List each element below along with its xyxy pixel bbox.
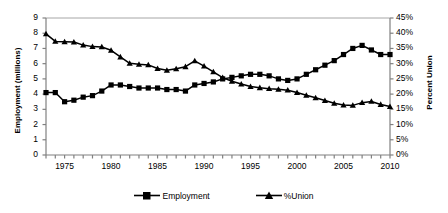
legend-item-employment[interactable]: Employment	[134, 190, 209, 201]
x-tick-label: 2000	[277, 161, 317, 171]
y-right-tick-label: 25%	[396, 73, 428, 83]
x-tick-label: 1985	[138, 161, 178, 171]
y-right-tick-label: 10%	[396, 119, 428, 129]
x-tick-label: 2005	[324, 161, 364, 171]
legend-item-union[interactable]: %Union	[256, 190, 314, 201]
x-tick-label: 1980	[91, 161, 131, 171]
y-right-tick-label: 30%	[396, 58, 428, 68]
y-left-tick-label: 1	[12, 134, 38, 144]
x-tick-label: 2010	[370, 161, 410, 171]
tick-marks	[43, 18, 394, 159]
y-right-tick-label: 45%	[396, 12, 428, 22]
y-left-tick-label: 8	[12, 27, 38, 37]
y-right-tick-label: 15%	[396, 103, 428, 113]
y-left-tick-label: 2	[12, 119, 38, 129]
legend-label-union: %Union	[284, 191, 314, 201]
x-tick-label: 1995	[231, 161, 271, 171]
y-right-tick-label: 5%	[396, 134, 428, 144]
x-tick-label: 1975	[45, 161, 85, 171]
y-left-tick-label: 9	[12, 12, 38, 22]
plot-area	[0, 0, 448, 213]
legend-marker-triangle	[256, 190, 282, 201]
chart-legend: Employment %Union	[0, 190, 448, 201]
y-left-tick-label: 7	[12, 42, 38, 52]
y-right-tick-label: 40%	[396, 27, 428, 37]
legend-label-employment: Employment	[162, 191, 209, 201]
y-left-tick-label: 5	[12, 73, 38, 83]
legend-marker-square	[134, 190, 160, 201]
y-right-tick-label: 0%	[396, 149, 428, 159]
axis-lines	[46, 18, 390, 155]
y-right-tick-label: 20%	[396, 88, 428, 98]
x-tick-label: 1990	[184, 161, 224, 171]
chart-container: Employment (millions) Percent Union 0123…	[0, 0, 448, 213]
y-left-tick-label: 0	[12, 149, 38, 159]
y-left-tick-label: 4	[12, 88, 38, 98]
y-left-tick-label: 6	[12, 58, 38, 68]
data-series-group	[43, 31, 393, 109]
y-right-tick-label: 35%	[396, 42, 428, 52]
y-left-tick-label: 3	[12, 103, 38, 113]
